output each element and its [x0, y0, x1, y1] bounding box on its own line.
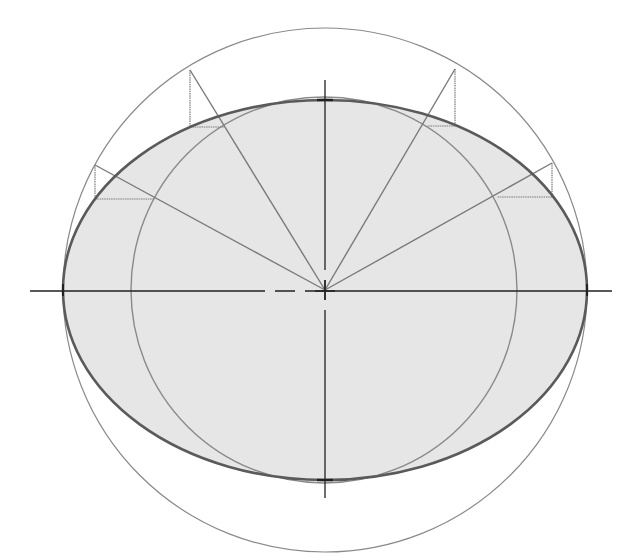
diagram-canvas [0, 0, 641, 556]
ellipse-construction-diagram [0, 0, 641, 556]
